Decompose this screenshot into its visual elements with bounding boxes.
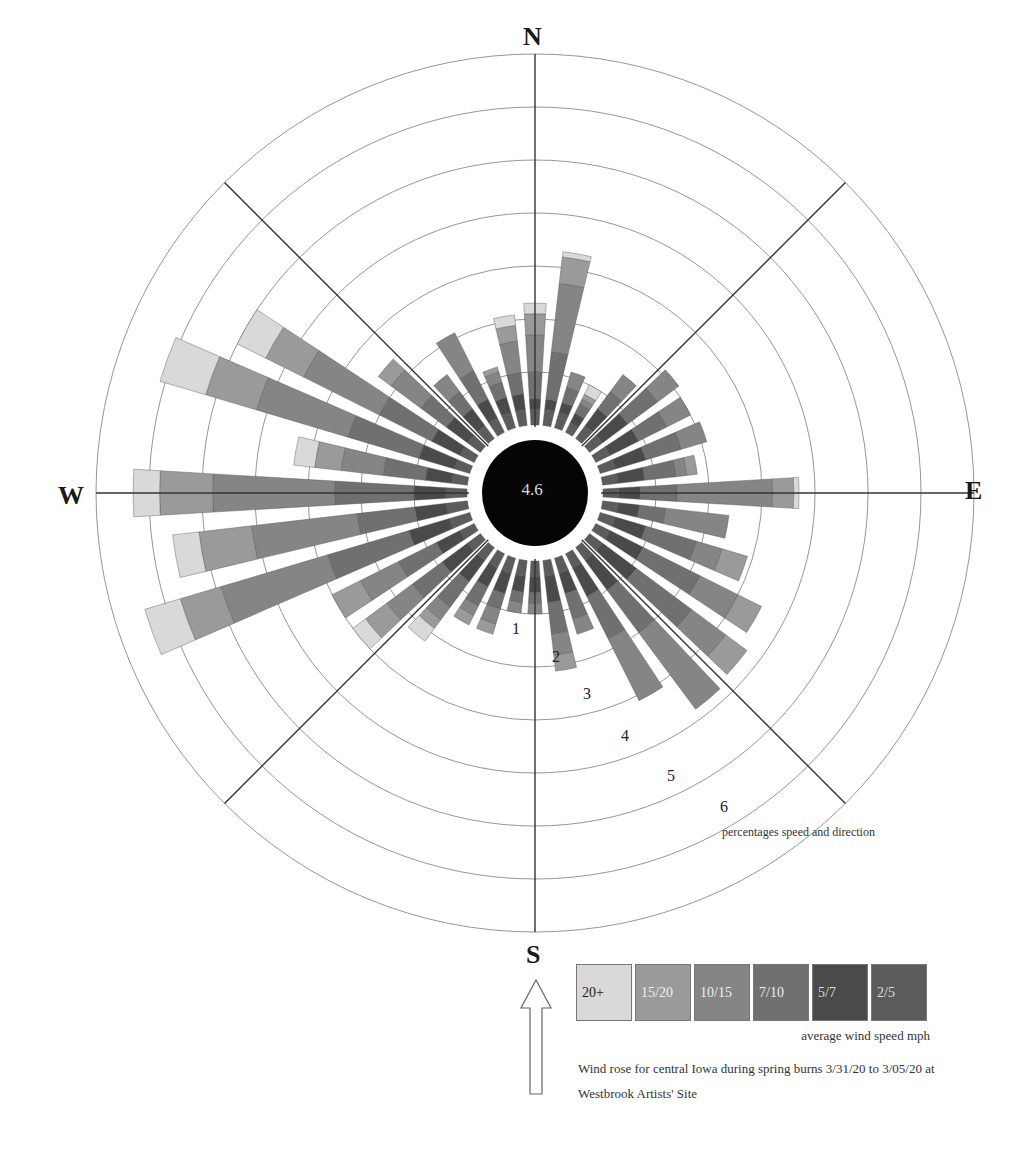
rose-bar-segment — [642, 460, 676, 480]
rose-bar-segment — [500, 341, 522, 375]
rose-bar-segment — [601, 474, 618, 486]
ring-label-6: 6 — [720, 798, 728, 816]
south-label: S — [526, 940, 540, 970]
rose-bar-segment — [221, 555, 336, 623]
ring-label-2: 2 — [552, 648, 560, 666]
rose-bar-segment — [559, 570, 577, 594]
east-label: E — [965, 476, 982, 506]
center-calm-value: 4.6 — [482, 480, 582, 500]
rose-bar-segment — [663, 508, 729, 538]
rose-bar-segment — [516, 410, 528, 427]
rose-bar-segment — [357, 507, 417, 535]
ring-label-3: 3 — [583, 685, 591, 703]
legend-label: 15/20 — [641, 985, 673, 1001]
rose-bar-segment — [559, 257, 590, 288]
rose-bar-segment — [617, 503, 640, 518]
rose-bar-segment — [294, 437, 320, 468]
legend-bin-7-10: 7/10 — [753, 964, 809, 1021]
legend-label: 2/5 — [877, 985, 895, 1001]
rose-bar-segment — [507, 373, 524, 396]
direction-axis — [582, 540, 846, 804]
rose-bar-segment — [543, 559, 555, 576]
rose-bar-segment — [493, 570, 511, 594]
rose-bar-segment — [383, 458, 427, 481]
radial-axis-caption: percentages speed and direction — [722, 825, 875, 840]
rose-bar-segment — [637, 505, 665, 523]
chart-description: Wind rose for central Iowa during spring… — [578, 1056, 938, 1106]
legend-label: 20+ — [582, 985, 604, 1001]
west-label: W — [58, 481, 84, 511]
rose-bar-segment — [601, 501, 618, 513]
legend-bin-15-20: 15/20 — [635, 964, 691, 1021]
rose-bar-segment — [446, 501, 468, 514]
ring-label-4: 4 — [621, 727, 629, 745]
rose-bar-segment — [516, 559, 528, 576]
legend-bin-2-5: 2/5 — [871, 964, 927, 1021]
ring-label-5: 5 — [667, 767, 675, 785]
rose-bar-segment — [617, 467, 645, 483]
up-arrow-icon — [518, 978, 554, 1098]
legend-label: 10/15 — [700, 985, 732, 1001]
rose-bar-segment — [415, 503, 448, 521]
ring-label-1: 1 — [512, 620, 520, 638]
north-label: N — [523, 22, 542, 52]
rose-bar-segment — [565, 589, 587, 619]
rose-bar-segment — [425, 467, 453, 483]
rose-bar-segment — [551, 283, 584, 354]
rose-bar-segment — [507, 600, 522, 613]
rose-bar-segment — [199, 526, 258, 572]
direction-axis — [582, 183, 846, 447]
rose-bar-segment — [543, 410, 555, 427]
legend-label: 5/7 — [818, 985, 836, 1001]
legend-bin-10-15: 10/15 — [694, 964, 750, 1021]
rose-bar-segment — [436, 333, 473, 379]
legend-caption: average wind speed mph — [600, 1028, 930, 1044]
rose-bar-segment — [545, 399, 557, 411]
legend-bin-5-7: 5/7 — [812, 964, 868, 1021]
rose-bar-segment — [512, 394, 525, 412]
legend-label: 7/10 — [759, 985, 784, 1001]
legend-bin-20plus: 20+ — [576, 964, 632, 1021]
rose-bar-segment — [548, 600, 568, 634]
rose-bar-segment — [341, 448, 386, 476]
rose-bar-segment — [512, 575, 525, 593]
rose-bar-segment — [452, 474, 469, 486]
speed-legend: 20+ 15/20 10/15 7/10 5/7 2/5 — [576, 964, 927, 1021]
rose-bar-segment — [545, 575, 561, 603]
rose-bar-segment — [315, 442, 345, 471]
